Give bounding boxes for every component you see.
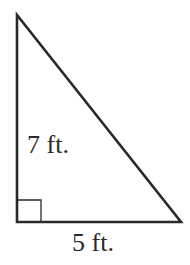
triangle-outline: [17, 15, 181, 222]
vertical-side-label: 7 ft.: [27, 130, 69, 159]
right-triangle-diagram: 7 ft. 5 ft.: [0, 0, 190, 265]
horizontal-side-label: 5 ft.: [72, 228, 114, 257]
right-angle-marker: [17, 200, 41, 222]
